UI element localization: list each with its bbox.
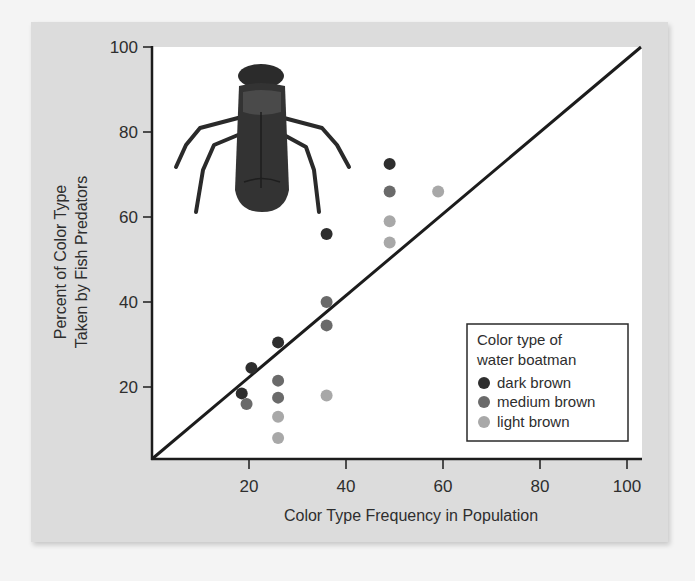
y-tick-label: 60: [119, 208, 138, 227]
x-tick-label: 20: [240, 477, 259, 496]
legend-title-line-2: water boatman: [476, 351, 576, 368]
x-tick-label: 40: [337, 477, 356, 496]
data-point-light-brown: [384, 237, 396, 249]
legend: Color type of water boatman dark brown m…: [467, 324, 628, 441]
data-point-dark-brown: [321, 228, 333, 240]
y-axis-title: Percent of Color Type Taken by Fish Pred…: [52, 176, 90, 349]
y-tick-label: 40: [119, 293, 138, 312]
legend-dot-dark-brown: [478, 377, 490, 389]
legend-label-dark-brown: dark brown: [497, 374, 571, 391]
y-tick-label: 100: [110, 38, 138, 57]
y-tick-label: 20: [119, 378, 138, 397]
legend-label-medium-brown: medium brown: [497, 393, 595, 410]
data-point-medium-brown: [241, 398, 253, 410]
data-point-dark-brown: [236, 387, 248, 399]
data-point-medium-brown: [321, 296, 333, 308]
data-point-dark-brown: [272, 336, 284, 348]
data-point-dark-brown: [384, 158, 396, 170]
legend-label-light-brown: light brown: [497, 413, 570, 430]
legend-dot-medium-brown: [478, 396, 490, 408]
x-tick-label: 100: [613, 477, 641, 496]
y-axis-title-line-1: Percent of Color Type: [52, 185, 69, 340]
data-point-light-brown: [272, 411, 284, 423]
y-tick-label: 80: [119, 123, 138, 142]
data-point-medium-brown: [272, 375, 284, 387]
scatter-chart: 20406080100 20406080100 Color Type Frequ…: [0, 0, 695, 581]
legend-title-line-1: Color type of: [477, 331, 563, 348]
x-tick-label: 80: [531, 477, 550, 496]
data-point-medium-brown: [272, 392, 284, 404]
data-point-medium-brown: [321, 319, 333, 331]
data-point-light-brown: [384, 215, 396, 227]
x-axis-ticks: 20406080100: [240, 459, 642, 496]
data-point-light-brown: [321, 390, 333, 402]
x-tick-label: 60: [434, 477, 453, 496]
x-axis-title: Color Type Frequency in Population: [284, 507, 538, 524]
data-point-light-brown: [432, 186, 444, 198]
data-point-light-brown: [272, 432, 284, 444]
y-axis-title-line-2: Taken by Fish Predators: [73, 176, 90, 349]
data-point-dark-brown: [245, 362, 257, 374]
legend-dot-light-brown: [478, 416, 490, 428]
data-point-medium-brown: [384, 186, 396, 198]
y-axis-ticks: 20406080100: [110, 38, 152, 397]
